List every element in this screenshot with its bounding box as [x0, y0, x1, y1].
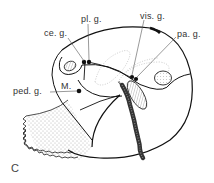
panel-label: C: [11, 163, 19, 174]
label-m: M.: [61, 82, 71, 91]
parietal-ganglion: [134, 77, 138, 81]
diagram-canvas: pl. g. ce. g. vis. g. pa. g. ped. g. M. …: [0, 0, 214, 183]
label-ce-g: ce. g.: [44, 29, 67, 38]
pleural-ganglion: [87, 60, 91, 64]
pedal-ganglion: [77, 89, 82, 94]
label-pl-g: pl. g.: [81, 15, 102, 24]
cerebral-ganglion: [82, 60, 86, 64]
label-ped-g: ped. g.: [13, 87, 42, 96]
label-vis-g: vis. g.: [140, 12, 165, 21]
label-pa-g: pa. g.: [177, 30, 201, 39]
visceral-ganglion: [130, 75, 134, 79]
